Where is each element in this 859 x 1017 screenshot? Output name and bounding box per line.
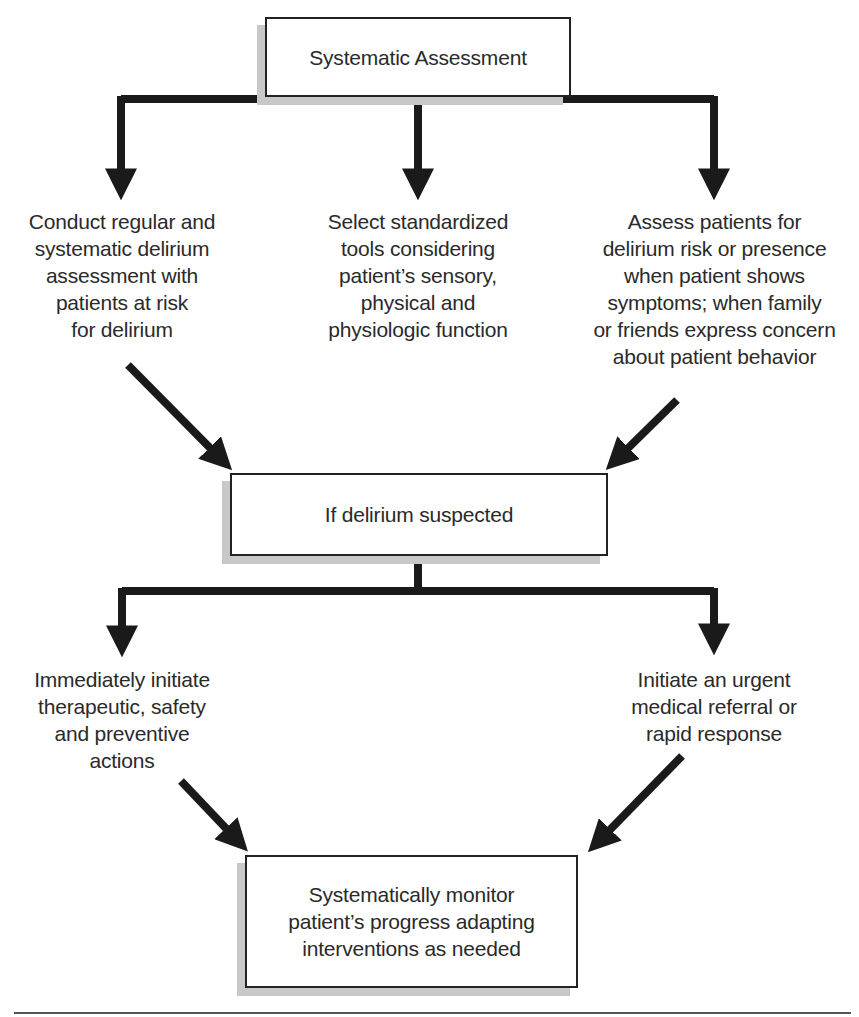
arrow-diagonal-right-to-decision — [616, 400, 677, 460]
arrow-diagonal-left-to-final — [181, 781, 238, 841]
systematic-assessment-box: Systematic Assessment — [265, 17, 571, 97]
branch-conduct-assessment: Conduct regular and systematic delirium … — [2, 208, 242, 343]
if-delirium-suspected-box: If delirium suspected — [230, 473, 608, 556]
branch-assess-patients: Assess patients for delirium risk or pre… — [570, 208, 859, 370]
branch-select-tools: Select standardized tools considering pa… — [298, 208, 538, 343]
monitor-progress-label: Systematically monitor patient’s progres… — [288, 881, 534, 962]
bottom-divider — [14, 1012, 851, 1014]
delirium-assessment-flowchart: Systematic Assessment Conduct regular an… — [0, 0, 859, 1017]
systematic-assessment-label: Systematic Assessment — [309, 44, 527, 71]
branch-urgent-referral: Initiate an urgent medical referral or r… — [594, 666, 834, 747]
branch-immediate-actions: Immediately initiate therapeutic, safety… — [2, 666, 242, 774]
if-delirium-suspected-label: If delirium suspected — [325, 501, 513, 528]
arrow-diagonal-left-to-decision — [128, 365, 222, 460]
arrow-diagonal-right-to-final — [598, 756, 682, 842]
monitor-progress-box: Systematically monitor patient’s progres… — [245, 855, 578, 988]
